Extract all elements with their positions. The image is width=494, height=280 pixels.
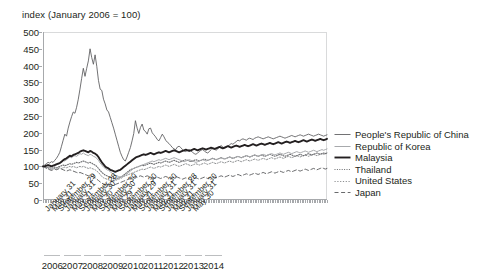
legend-line-icon <box>334 129 351 140</box>
y-tick-label: 350 <box>5 77 39 88</box>
year-label: 2008 <box>82 260 103 271</box>
y-tick-mark <box>39 166 42 167</box>
legend-item[interactable]: Thailand <box>334 164 492 176</box>
y-tick-mark <box>39 200 42 201</box>
year-label: 2010 <box>122 260 143 271</box>
year-separator-rule <box>185 255 201 256</box>
year-separator-rule <box>205 255 221 256</box>
y-tick-mark <box>39 116 42 117</box>
y-tick-label: 450 <box>5 43 39 54</box>
legend-label: Thailand <box>355 164 391 176</box>
y-tick-mark <box>39 183 42 184</box>
y-tick-label: 50 <box>5 178 39 189</box>
legend-line-icon <box>334 176 351 187</box>
year-label: 2014 <box>203 260 224 271</box>
y-tick-mark <box>39 99 42 100</box>
y-tick-label: 400 <box>5 60 39 71</box>
year-label: 2009 <box>102 260 123 271</box>
legend-line-icon <box>334 141 351 152</box>
year-separator-rule <box>84 255 100 256</box>
y-tick-label: 500 <box>5 27 39 38</box>
y-tick-mark <box>39 133 42 134</box>
legend-line-icon <box>334 164 351 175</box>
year-separator-rule <box>64 255 80 256</box>
y-tick-label: 100 <box>5 161 39 172</box>
year-separator-rule <box>44 255 60 256</box>
year-separator-rule <box>165 255 181 256</box>
series-line <box>43 149 327 177</box>
year-label: 2011 <box>143 260 163 271</box>
legend-label: Republic of Korea <box>355 141 431 153</box>
series-line <box>43 153 327 181</box>
legend-label: United States <box>355 175 412 187</box>
y-tick-label: 250 <box>5 111 39 122</box>
legend-line-icon <box>334 187 351 198</box>
x-tick-mark <box>327 200 328 203</box>
y-axis: 050100150200250300350400450500 <box>0 32 39 200</box>
y-tick-mark <box>39 150 42 151</box>
y-tick-mark <box>39 49 42 50</box>
year-separator-rule <box>104 255 120 256</box>
chart-legend: People's Republic of ChinaRepublic of Ko… <box>334 129 492 199</box>
y-tick-label: 200 <box>5 127 39 138</box>
year-label: 2006 <box>42 260 63 271</box>
legend-item[interactable]: Japan <box>334 187 492 199</box>
year-label: 2007 <box>62 260 83 271</box>
series-line <box>43 153 327 179</box>
y-tick-mark <box>39 32 42 33</box>
legend-label: Malaysia <box>355 152 393 164</box>
series-layer <box>43 32 327 200</box>
year-label: 2013 <box>183 260 204 271</box>
y-tick-mark <box>39 66 42 67</box>
legend-label: People's Republic of China <box>355 129 469 141</box>
y-tick-mark <box>39 82 42 83</box>
series-line <box>43 49 327 167</box>
legend-item[interactable]: People's Republic of China <box>334 129 492 141</box>
legend-item[interactable]: Republic of Korea <box>334 141 492 153</box>
y-tick-label: 300 <box>5 94 39 105</box>
year-label: 2012 <box>163 260 184 271</box>
year-separator-rule <box>145 255 161 256</box>
legend-item[interactable]: United States <box>334 175 492 187</box>
legend-label: Japan <box>355 187 381 199</box>
legend-line-icon <box>334 152 351 163</box>
x-axis-ticks <box>43 200 328 206</box>
y-tick-label: 0 <box>5 195 39 206</box>
chart-figure: index (January 2006 = 100) 0501001502002… <box>0 0 494 280</box>
year-axis: 200620072008200920102011201220132014 <box>0 252 494 276</box>
chart-axis-title: index (January 2006 = 100) <box>22 9 141 20</box>
legend-item[interactable]: Malaysia <box>334 152 492 164</box>
plot-area <box>43 32 327 200</box>
series-line <box>43 166 327 185</box>
y-tick-label: 150 <box>5 144 39 155</box>
year-separator-rule <box>125 255 141 256</box>
